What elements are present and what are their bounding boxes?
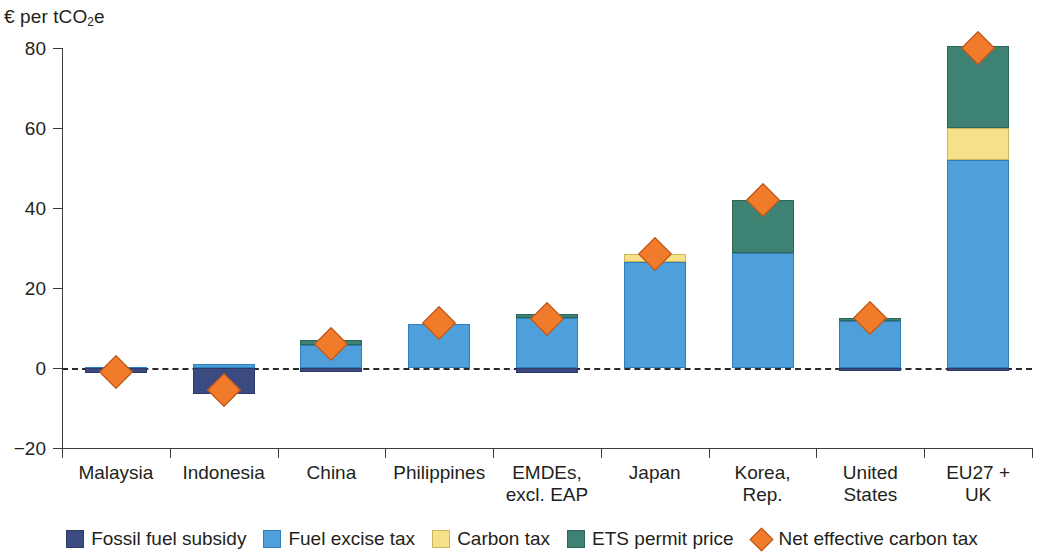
y-tick-mark bbox=[53, 208, 62, 209]
x-axis-category-label: Malaysia bbox=[62, 462, 170, 484]
legend-swatch-ets-icon bbox=[567, 530, 585, 548]
x-tick-mark bbox=[924, 448, 925, 458]
y-tick-label: 80 bbox=[4, 39, 46, 58]
legend-label: ETS permit price bbox=[592, 528, 733, 550]
y-tick-label: 40 bbox=[4, 199, 46, 218]
x-axis-category-label: Indonesia bbox=[170, 462, 278, 484]
y-tick-label: 60 bbox=[4, 119, 46, 138]
bar-segment-subsidy bbox=[839, 368, 901, 371]
y-tick-mark bbox=[53, 368, 62, 369]
category-label-line: Korea, bbox=[709, 462, 817, 484]
legend-label: Carbon tax bbox=[457, 528, 550, 550]
y-tick-mark bbox=[53, 128, 62, 129]
legend-label: Net effective carbon tax bbox=[779, 528, 978, 550]
category-label-line: UK bbox=[924, 484, 1032, 506]
x-tick-mark bbox=[493, 448, 494, 458]
category-label-line: Japan bbox=[601, 462, 709, 484]
bar-segment bbox=[947, 128, 1009, 160]
legend-item[interactable]: Fuel excise tax bbox=[263, 528, 415, 550]
x-tick-mark bbox=[601, 448, 602, 458]
category-label-line: EMDEs, bbox=[493, 462, 601, 484]
bar-segment bbox=[732, 253, 794, 368]
bar-segment bbox=[947, 160, 1009, 368]
y-tick-mark bbox=[53, 288, 62, 289]
bar-segment-subsidy bbox=[947, 368, 1009, 371]
category-label-line: Indonesia bbox=[170, 462, 278, 484]
category-label-line: Malaysia bbox=[62, 462, 170, 484]
y-axis-title-subscript: 2 bbox=[87, 15, 94, 29]
category-label-line: EU27 + bbox=[924, 462, 1032, 484]
x-axis-category-label: Japan bbox=[601, 462, 709, 484]
category-label-line: States bbox=[816, 484, 924, 506]
x-tick-mark bbox=[170, 448, 171, 458]
x-tick-mark bbox=[62, 448, 63, 458]
x-axis-category-label: EU27 +UK bbox=[924, 462, 1032, 506]
y-tick-mark bbox=[53, 48, 62, 49]
x-tick-mark bbox=[385, 448, 386, 458]
legend-swatch-subsidy-icon bbox=[66, 530, 84, 548]
legend-item[interactable]: Carbon tax bbox=[432, 528, 550, 550]
bar-segment-subsidy bbox=[300, 368, 362, 372]
legend-swatch-excise-icon bbox=[263, 530, 281, 548]
legend-diamond-marker-icon bbox=[749, 527, 773, 551]
y-axis-title-text: € per tCO2e bbox=[4, 6, 105, 27]
bar-segment bbox=[624, 262, 686, 368]
y-tick-mark bbox=[53, 448, 62, 449]
x-axis-category-label: Korea,Rep. bbox=[709, 462, 817, 506]
y-tick-label: 0 bbox=[4, 359, 46, 378]
legend-label: Fuel excise tax bbox=[288, 528, 415, 550]
legend-swatch-carbon-icon bbox=[432, 530, 450, 548]
x-tick-mark bbox=[278, 448, 279, 458]
y-axis-line bbox=[62, 48, 63, 448]
diamond-marker-icon bbox=[99, 355, 133, 389]
y-tick-label: −20 bbox=[4, 439, 46, 458]
category-label-line: United bbox=[816, 462, 924, 484]
x-axis-category-label: China bbox=[278, 462, 386, 484]
category-label-line: excl. EAP bbox=[493, 484, 601, 506]
y-tick-label: 20 bbox=[4, 279, 46, 298]
chart-legend: Fossil fuel subsidyFuel excise taxCarbon… bbox=[0, 528, 1044, 550]
x-tick-mark bbox=[1032, 448, 1033, 458]
category-label-line: China bbox=[278, 462, 386, 484]
x-axis-category-label: UnitedStates bbox=[816, 462, 924, 506]
category-label-line: Rep. bbox=[709, 484, 817, 506]
x-tick-mark bbox=[816, 448, 817, 458]
y-axis-title: € per tCO2e bbox=[4, 6, 105, 29]
legend-label: Fossil fuel subsidy bbox=[91, 528, 246, 550]
legend-item[interactable]: Fossil fuel subsidy bbox=[66, 528, 246, 550]
chart-container: € per tCO2e 806040200−20 MalaysiaIndones… bbox=[0, 0, 1044, 560]
x-axis-category-label: EMDEs,excl. EAP bbox=[493, 462, 601, 506]
bar-segment-subsidy bbox=[516, 368, 578, 373]
category-label-line: Philippines bbox=[385, 462, 493, 484]
legend-item[interactable]: Net effective carbon tax bbox=[751, 528, 978, 550]
x-tick-mark bbox=[709, 448, 710, 458]
x-axis-line bbox=[62, 448, 1032, 449]
legend-item[interactable]: ETS permit price bbox=[567, 528, 733, 550]
x-axis-category-label: Philippines bbox=[385, 462, 493, 484]
